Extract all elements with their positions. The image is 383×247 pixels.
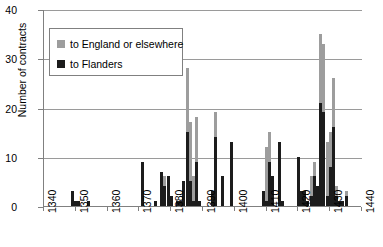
x-axis-tick-label: 1380 xyxy=(174,190,184,213)
x-axis-tick-label: 1370 xyxy=(142,190,152,213)
bar xyxy=(154,201,157,206)
legend-label-flanders: to Flanders xyxy=(70,59,123,70)
bar-segment-england xyxy=(313,162,316,177)
bar xyxy=(281,201,284,206)
bar xyxy=(195,117,198,206)
bar-segment-flanders xyxy=(345,196,348,206)
x-axis-tick-label: 1400 xyxy=(238,190,248,213)
x-axis-tick-label: 1430 xyxy=(333,190,343,213)
x-axis-tick-mark xyxy=(43,207,44,211)
y-axis-tick-label: 40 xyxy=(0,5,17,15)
bar-segment-flanders xyxy=(230,142,233,206)
x-axis-tick-mark xyxy=(75,207,76,211)
bar-segment-england xyxy=(189,122,192,181)
legend-item-england: to England or elsewhere xyxy=(57,38,183,50)
x-axis-tick-label: 1350 xyxy=(79,190,89,213)
legend-item-flanders: to Flanders xyxy=(57,58,123,70)
x-axis-tick-mark xyxy=(329,207,330,211)
bar-segment-flanders xyxy=(154,201,157,206)
bar xyxy=(221,176,224,206)
y-axis-title: Number of contracts xyxy=(16,0,28,140)
x-axis-tick-label: 1360 xyxy=(111,190,121,213)
legend-swatch-icon-flanders xyxy=(57,60,65,68)
x-axis-tick-label: 1340 xyxy=(47,190,57,213)
bar-segment-england xyxy=(345,191,348,196)
bar xyxy=(230,142,233,206)
bar xyxy=(198,201,201,206)
x-axis-tick-label: 1440 xyxy=(365,190,375,213)
bar-segment-flanders xyxy=(198,201,201,206)
legend-swatch-icon-england xyxy=(57,40,65,48)
y-axis-tick-label: 30 xyxy=(0,54,17,64)
bar-segment-england xyxy=(332,78,335,127)
bar-segment-england xyxy=(322,44,325,113)
x-axis-tick-mark xyxy=(138,207,139,211)
bar-segment-flanders xyxy=(195,162,198,206)
x-axis-tick-label: 1390 xyxy=(206,190,216,213)
bar-segment-england xyxy=(195,117,198,161)
bar-segment-england xyxy=(268,132,271,162)
x-axis-tick-mark xyxy=(297,207,298,211)
x-axis-tick-mark xyxy=(202,207,203,211)
y-axis-tick-label: 0 xyxy=(0,202,17,212)
x-axis-tick-mark xyxy=(361,207,362,211)
bar-segment-england xyxy=(214,112,217,137)
x-axis-tick-mark xyxy=(107,207,108,211)
bar-segment-flanders xyxy=(221,176,224,206)
chart-container: Number of contracts 010203040 1340135013… xyxy=(0,0,383,247)
x-axis-tick-label: 1420 xyxy=(301,190,311,213)
bar-segment-flanders xyxy=(281,201,284,206)
legend: to England or elsewhere to Flanders xyxy=(49,28,183,76)
x-axis-tick-mark xyxy=(266,207,267,211)
x-axis-tick-mark xyxy=(234,207,235,211)
bar xyxy=(345,191,348,206)
x-axis-tick-mark xyxy=(170,207,171,211)
y-axis-tick-label: 10 xyxy=(0,153,17,163)
y-axis-tick-label: 20 xyxy=(0,104,17,114)
x-axis-tick-label: 1410 xyxy=(270,190,280,213)
legend-label-england: to England or elsewhere xyxy=(70,39,183,50)
